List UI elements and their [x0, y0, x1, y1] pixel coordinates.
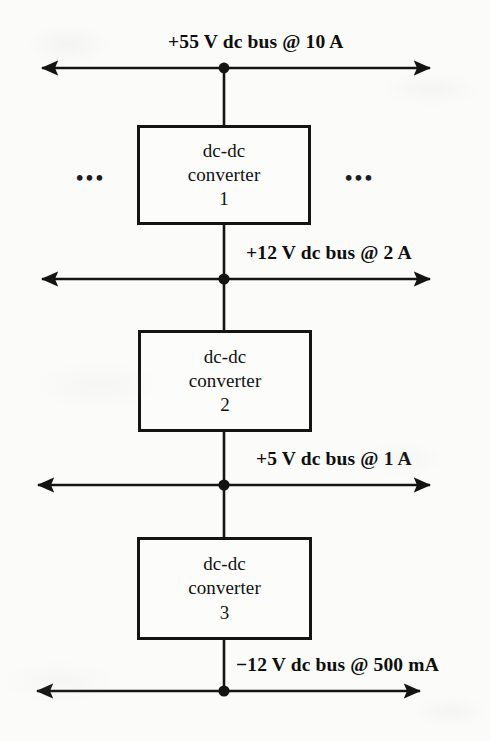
converter-3-line-1: dc-dc — [203, 552, 246, 576]
bus-label-55v: +55 V dc bus @ 10 A — [168, 31, 344, 53]
bus-label-5v: +5 V dc bus @ 1 A — [256, 448, 412, 470]
bus-label-neg12v: −12 V dc bus @ 500 mA — [236, 654, 439, 676]
converter-1-line-2: converter — [188, 163, 261, 187]
junction-dot-neg12v — [218, 685, 229, 696]
diagram-canvas: +55 V dc bus @ 10 A +12 V dc bus @ 2 A +… — [0, 0, 490, 741]
converter-3-line-2: converter — [188, 576, 261, 600]
junction-dot-5v — [218, 479, 229, 490]
junction-dot-12v — [218, 273, 229, 284]
ellipsis-left: ••• — [76, 166, 106, 191]
converter-3-index: 3 — [220, 601, 230, 625]
converter-2-line-2: converter — [189, 369, 262, 393]
converter-block-2: dc-dc converter 2 — [138, 330, 312, 432]
converter-block-1: dc-dc converter 1 — [137, 125, 311, 225]
junction-dot-55v — [219, 63, 230, 74]
converter-1-index: 1 — [219, 187, 229, 211]
ellipsis-right: ••• — [345, 166, 375, 191]
converter-2-index: 2 — [220, 393, 230, 417]
converter-block-3: dc-dc converter 3 — [137, 537, 312, 640]
converter-2-line-1: dc-dc — [204, 345, 247, 369]
bus-label-12v: +12 V dc bus @ 2 A — [246, 242, 412, 264]
converter-1-line-1: dc-dc — [203, 139, 246, 163]
